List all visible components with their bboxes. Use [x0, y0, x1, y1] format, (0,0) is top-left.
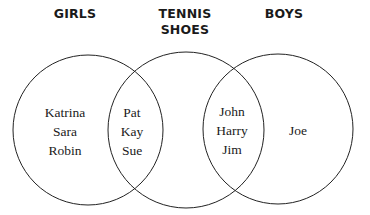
list-item: Sue — [110, 141, 154, 160]
list-item: John — [208, 102, 256, 121]
girls-and-tennis-region: Pat Kay Sue — [110, 103, 154, 160]
boys-and-tennis-region: John Harry Jim — [208, 102, 256, 159]
list-item: Kay — [110, 122, 154, 141]
girls-only-region: Katrina Sara Robin — [30, 103, 100, 160]
list-item: Jim — [208, 140, 256, 159]
list-item: Harry — [208, 121, 256, 140]
boys-only-region: Joe — [278, 121, 318, 140]
list-item: Robin — [30, 141, 100, 160]
list-item: Katrina — [30, 103, 100, 122]
list-item: Sara — [30, 122, 100, 141]
list-item: Pat — [110, 103, 154, 122]
list-item: Joe — [278, 121, 318, 140]
